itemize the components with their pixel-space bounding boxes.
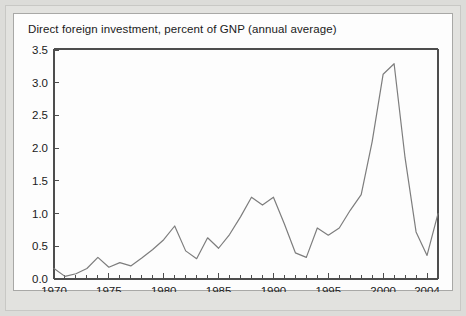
x-tick-label: 1980 [151, 285, 177, 292]
y-tick-label: 3.0 [32, 77, 48, 89]
figure-root: Direct foreign investment, percent of GN… [0, 0, 466, 316]
x-axis: 19701975198019851990199520002004 [41, 49, 440, 292]
plot-area: 0.00.51.01.52.02.53.03.5 197019751980198… [14, 14, 454, 292]
y-tick-label: 1.0 [32, 208, 48, 220]
y-tick-label: 1.5 [32, 175, 48, 187]
y-tick-label: 0.0 [32, 273, 48, 285]
line-chart-svg: 0.00.51.01.52.02.53.03.5 197019751980198… [14, 14, 454, 292]
y-axis: 0.00.51.01.52.02.53.03.5 [32, 44, 59, 285]
x-tick-label: 2004 [414, 285, 440, 292]
y-tick-label: 3.5 [32, 44, 48, 56]
y-tick-label: 2.0 [32, 142, 48, 154]
x-tick-label: 1985 [206, 285, 232, 292]
chart-panel: Direct foreign investment, percent of GN… [13, 13, 453, 291]
data-series-line [54, 64, 438, 277]
x-tick-label: 1995 [315, 285, 341, 292]
x-tick-label: 1970 [41, 285, 67, 292]
x-tick-label: 1990 [261, 285, 287, 292]
y-tick-label: 2.5 [32, 109, 48, 121]
x-tick-label: 2000 [370, 285, 396, 292]
y-tick-label: 0.5 [32, 240, 48, 252]
x-tick-label: 1975 [96, 285, 122, 292]
